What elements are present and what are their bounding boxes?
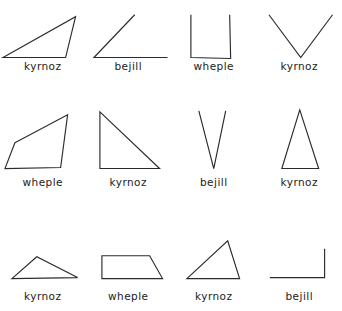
shape-figure-bejill bbox=[86, 0, 172, 61]
shape-figure-bejill bbox=[257, 193, 342, 291]
shape-label: kyrnoz bbox=[110, 177, 147, 194]
shape-cell: wheple bbox=[86, 193, 172, 311]
shape-figure-kyrnoz bbox=[0, 0, 86, 61]
shape-figure-wheple bbox=[86, 193, 172, 291]
shape-cell: kyrnoz bbox=[0, 193, 86, 311]
shape-figure-kyrnoz bbox=[0, 193, 86, 291]
figure-sheet: kyrnoz bejill wheple kyrnoz wheple kyrno… bbox=[0, 0, 342, 311]
shape-cell: bejill bbox=[86, 0, 172, 75]
shape-label: kyrnoz bbox=[24, 61, 61, 76]
shape-figure-kyrnoz bbox=[86, 75, 172, 177]
shape-label: bejill bbox=[115, 61, 143, 76]
shape-figure-kyrnoz bbox=[257, 75, 342, 177]
shape-cell: bejill bbox=[171, 75, 257, 193]
shape-cell: kyrnoz bbox=[257, 0, 342, 75]
shape-label: wheple bbox=[23, 177, 63, 194]
shape-label: bejill bbox=[286, 291, 314, 311]
shape-cell: kyrnoz bbox=[171, 193, 257, 311]
shape-figure-wheple bbox=[171, 0, 257, 61]
shape-label: bejill bbox=[200, 177, 228, 194]
shape-label: kyrnoz bbox=[281, 61, 318, 76]
shape-grid: kyrnoz bejill wheple kyrnoz wheple kyrno… bbox=[0, 0, 342, 311]
shape-cell: kyrnoz bbox=[86, 75, 172, 193]
shape-cell: bejill bbox=[257, 193, 342, 311]
shape-label: wheple bbox=[194, 61, 234, 76]
shape-cell: kyrnoz bbox=[257, 75, 342, 193]
shape-label: wheple bbox=[108, 291, 148, 311]
shape-cell: wheple bbox=[171, 0, 257, 75]
shape-cell: wheple bbox=[0, 75, 86, 193]
shape-figure-bejill bbox=[171, 75, 257, 177]
shape-label: kyrnoz bbox=[281, 177, 318, 194]
shape-label: kyrnoz bbox=[24, 291, 61, 311]
shape-figure-kyrnoz bbox=[257, 0, 342, 61]
shape-label: kyrnoz bbox=[195, 291, 232, 311]
shape-cell: kyrnoz bbox=[0, 0, 86, 75]
shape-figure-wheple bbox=[0, 75, 86, 177]
shape-figure-kyrnoz bbox=[171, 193, 257, 291]
